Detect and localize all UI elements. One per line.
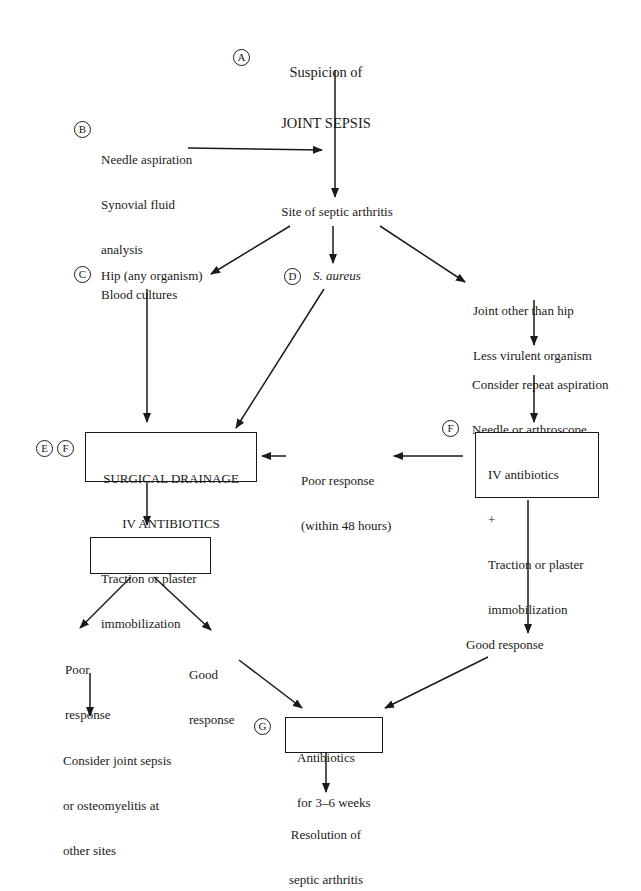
good-left-line-1: Good bbox=[189, 667, 235, 682]
consider-line-3: other sites bbox=[63, 843, 171, 858]
node-needle-aspiration: Needle aspiration Synovial fluid analysi… bbox=[101, 122, 192, 317]
ivabx-line-2: + bbox=[488, 512, 584, 527]
node-consider-joint-sepsis-other-sites: Consider joint sepsis or osteomyelitis a… bbox=[63, 723, 171, 873]
node-s-aureus: S. aureus bbox=[313, 268, 361, 283]
ivabx-line-4: immobilization bbox=[488, 602, 584, 617]
node-b-line-2: Synovial fluid bbox=[101, 197, 192, 212]
node-hip-any-organism: Hip (any organism) bbox=[101, 268, 203, 283]
poor48-line-2: (within 48 hours) bbox=[301, 518, 391, 533]
node-a-line-1: Suspicion of bbox=[262, 64, 390, 81]
ivabx-text: IV antibiotics + Traction or plaster imm… bbox=[488, 437, 584, 647]
node-repeat-line-1: Consider repeat aspiration bbox=[472, 377, 608, 392]
marker-c: C bbox=[74, 266, 91, 283]
node-b-line-1: Needle aspiration bbox=[101, 152, 192, 167]
ivabx-line-1: IV antibiotics bbox=[488, 467, 584, 482]
node-poor-response: Poor response bbox=[65, 632, 111, 737]
marker-g: G bbox=[254, 718, 271, 735]
consider-line-2: or osteomyelitis at bbox=[63, 798, 171, 813]
node-site-of-septic-arthritis: Site of septic arthritis bbox=[262, 204, 412, 219]
marker-f-right: F bbox=[442, 420, 459, 437]
poor-line-1: Poor bbox=[65, 662, 111, 677]
ivabx-line-3: Traction or plaster bbox=[488, 557, 584, 572]
g-line-1: Antibiotics bbox=[297, 750, 371, 765]
marker-a: A bbox=[233, 49, 250, 66]
consider-line-1: Consider joint sepsis bbox=[63, 753, 171, 768]
marker-d: D bbox=[284, 268, 301, 285]
traction-line-1: Traction or plaster bbox=[101, 571, 197, 586]
node-b-line-4: Blood cultures bbox=[101, 287, 192, 302]
marker-e: E bbox=[36, 440, 53, 457]
node-poor-response-48h: Poor response (within 48 hours) bbox=[301, 443, 391, 548]
surgical-line-2: IV ANTIBIOTICS bbox=[86, 516, 256, 531]
marker-f-left: F bbox=[57, 440, 74, 457]
resolution-line-1: Resolution of bbox=[276, 827, 376, 842]
node-good-response-right: Good response bbox=[466, 637, 544, 652]
poor-line-2: response bbox=[65, 707, 111, 722]
marker-b: B bbox=[74, 121, 91, 138]
box-traction-immobilization: Traction or plaster immobilization bbox=[90, 537, 211, 574]
box-iv-antibiotics-traction: IV antibiotics + Traction or plaster imm… bbox=[475, 432, 599, 498]
surgical-line-1: SURGICAL DRAINAGE bbox=[86, 471, 256, 486]
node-good-response-left: Good response bbox=[189, 637, 235, 742]
good-left-line-2: response bbox=[189, 712, 235, 727]
node-a-line-2: JOINT SEPSIS bbox=[262, 115, 390, 132]
resolution-line-2: septic arthritis bbox=[276, 872, 376, 887]
poor48-line-1: Poor response bbox=[301, 473, 391, 488]
box-surgical-drainage: SURGICAL DRAINAGE IV ANTIBIOTICS bbox=[85, 432, 257, 482]
traction-text: Traction or plaster immobilization bbox=[101, 541, 197, 661]
box-antibiotics-3-6-weeks: Antibiotics for 3–6 weeks bbox=[285, 717, 383, 753]
node-other-line-1: Joint other than hip bbox=[473, 303, 592, 318]
node-b-line-3: analysis bbox=[101, 242, 192, 257]
node-suspicion-joint-sepsis: Suspicion of JOINT SEPSIS bbox=[262, 30, 390, 149]
traction-line-2: immobilization bbox=[101, 616, 197, 631]
node-resolution-septic-arthritis: Resolution of septic arthritis bbox=[276, 797, 376, 891]
